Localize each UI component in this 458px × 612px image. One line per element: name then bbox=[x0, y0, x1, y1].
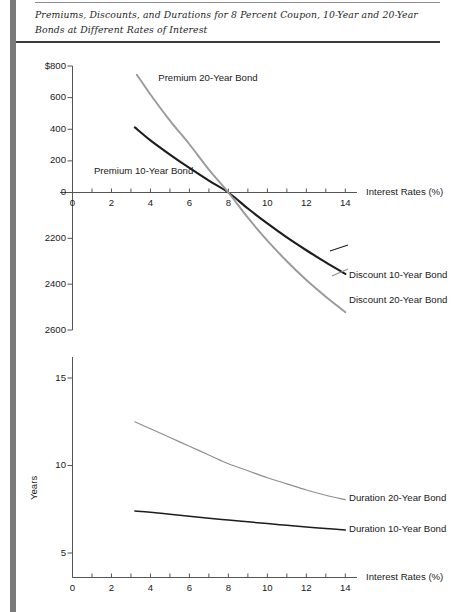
premium-y-tick-label: 200 bbox=[18, 154, 66, 165]
duration-chart-axes bbox=[73, 357, 358, 578]
duration-chart-ticks bbox=[68, 378, 346, 578]
series-annotation: Premium 10-Year Bond bbox=[94, 165, 193, 176]
premium-x-tick-label: 6 bbox=[175, 197, 203, 208]
series-annotation: Duration 10-Year Bond bbox=[349, 523, 446, 534]
premium-x-tick-label: 8 bbox=[214, 197, 242, 208]
series-annotation: Premium 20-Year Bond bbox=[158, 72, 257, 83]
premium-x-tick-label: 14 bbox=[331, 197, 359, 208]
duration-x-tick-label: 12 bbox=[292, 582, 320, 593]
premium-y-tick-label: $800 bbox=[18, 60, 66, 71]
premium-y-tick-label: 400 bbox=[18, 123, 66, 134]
duration-x-axis-label: Interest Rates (%) bbox=[366, 571, 443, 582]
series-annotation: Duration 20-Year Bond bbox=[349, 492, 446, 503]
premium-x-tick-label: 2 bbox=[97, 197, 125, 208]
duration-x-tick-label: 4 bbox=[136, 582, 164, 593]
duration-x-tick-label: 8 bbox=[214, 582, 242, 593]
premium-x-tick-label: 10 bbox=[253, 197, 281, 208]
duration-x-tick-label: 2 bbox=[97, 582, 125, 593]
series-annotation: Discount 10-Year Bond bbox=[349, 269, 447, 280]
premium-y-tick-label: 2600 bbox=[18, 324, 66, 335]
duration-x-tick-label: 0 bbox=[59, 582, 87, 593]
duration-y-tick-label: 15 bbox=[18, 372, 66, 383]
duration-x-tick-label: 6 bbox=[175, 582, 203, 593]
premium-x-tick-label: 4 bbox=[136, 197, 164, 208]
figure-root: Premiums, Discounts, and Durations for 8… bbox=[0, 0, 458, 612]
charts-svg bbox=[0, 0, 458, 612]
series-annotation: Discount 20-Year Bond bbox=[349, 294, 447, 305]
premium-y-tick-label: 2400 bbox=[18, 278, 66, 289]
duration-y-tick-label: 5 bbox=[18, 547, 66, 558]
premium-x-tick-label: 12 bbox=[292, 197, 320, 208]
duration-chart-curves bbox=[135, 422, 345, 530]
premium-y-tick-label: 0 bbox=[18, 186, 66, 197]
premium-y-tick-label: 2200 bbox=[18, 232, 66, 243]
premium-x-tick-label: 0 bbox=[59, 197, 87, 208]
premium-chart-curves bbox=[135, 75, 345, 312]
duration-x-tick-label: 14 bbox=[331, 582, 359, 593]
premium-y-tick-label: 600 bbox=[18, 91, 66, 102]
duration-y-tick-label: 10 bbox=[18, 459, 66, 470]
duration-x-tick-label: 10 bbox=[253, 582, 281, 593]
premium-x-axis-label: Interest Rates (%) bbox=[366, 186, 443, 197]
duration-y-axis-label: Years bbox=[28, 476, 39, 500]
